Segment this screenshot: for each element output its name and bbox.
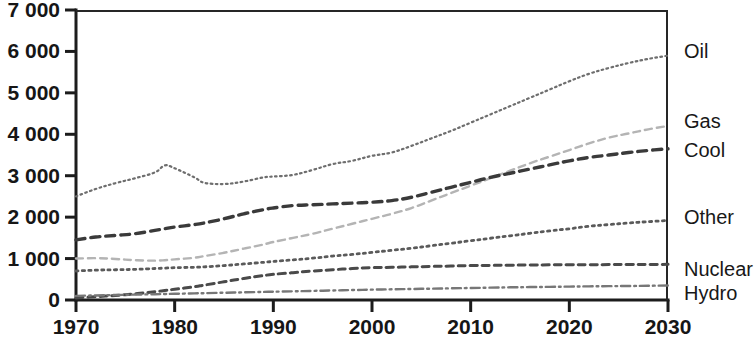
y-tick-label: 5 000: [7, 81, 60, 104]
x-axis-ticks: [76, 300, 668, 312]
series-line-oil: [76, 56, 668, 197]
y-axis-ticks: [65, 10, 76, 300]
y-axis-tick-labels: 01 0002 0003 0004 0005 0006 0007 000: [7, 0, 60, 311]
series-label-cool: Cool: [684, 139, 725, 161]
y-tick-label: 1 000: [7, 247, 60, 270]
y-tick-label: 3 000: [7, 164, 60, 187]
chart-canvas: 01 0002 0003 0004 0005 0006 0007 000 197…: [0, 0, 754, 340]
x-tick-label: 1970: [53, 315, 100, 338]
series-line-gas: [76, 126, 668, 261]
x-tick-label: 2010: [447, 315, 494, 338]
series-label-oil: Oil: [684, 40, 708, 62]
series-label-gas: Gas: [684, 110, 721, 132]
y-tick-label: 6 000: [7, 39, 60, 62]
energy-demand-line-chart: 01 0002 0003 0004 0005 0006 0007 000 197…: [0, 0, 754, 340]
series-label-nuclear: Nuclear: [684, 258, 753, 280]
y-tick-label: 2 000: [7, 205, 60, 228]
x-tick-label: 2030: [645, 315, 692, 338]
series-end-labels: OilGasCoolOtherNuclearHydro: [684, 40, 753, 304]
y-tick-label: 4 000: [7, 122, 60, 145]
y-tick-label: 0: [48, 288, 60, 311]
x-tick-label: 2000: [349, 315, 396, 338]
series-label-other: Other: [684, 206, 734, 228]
y-tick-label: 7 000: [7, 0, 60, 21]
x-tick-label: 1980: [151, 315, 198, 338]
x-axis-tick-labels: 1970198019902000201020202030: [53, 315, 692, 338]
x-tick-label: 1990: [250, 315, 297, 338]
series-label-hydro: Hydro: [684, 282, 737, 304]
series-lines: [76, 56, 668, 298]
x-tick-label: 2020: [546, 315, 593, 338]
